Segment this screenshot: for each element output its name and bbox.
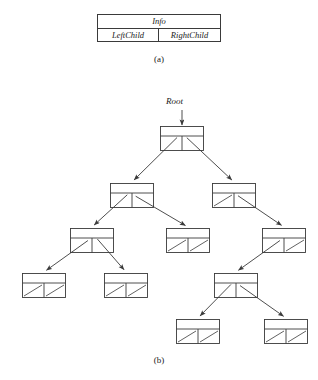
tree-node bbox=[213, 184, 256, 208]
child-pointer-edge-right bbox=[240, 286, 283, 317]
tree-node bbox=[177, 320, 220, 344]
child-pointer-edge-left bbox=[46, 241, 87, 271]
tree-node bbox=[23, 274, 66, 298]
tree-node bbox=[105, 274, 148, 298]
binary-tree-diagram bbox=[0, 0, 318, 380]
child-pointer-edge-right bbox=[136, 196, 186, 225]
child-pointer-edge-left bbox=[238, 241, 279, 271]
child-pointer-edge-right bbox=[238, 196, 282, 226]
figure-canvas: Info LeftChild RightChild (a) Root (b) bbox=[0, 0, 318, 380]
tree-node bbox=[167, 229, 210, 253]
child-pointer-edge-right bbox=[187, 138, 232, 180]
tree-node bbox=[265, 320, 308, 344]
child-pointer-edge-left bbox=[134, 138, 177, 180]
